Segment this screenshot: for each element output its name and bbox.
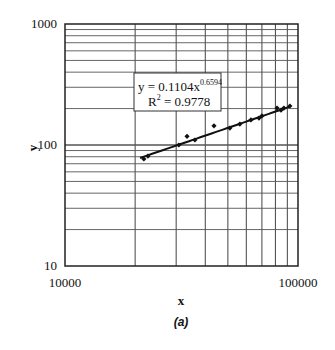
equation-box: y = 0.1104x0.6594 R2 = 0.9778 — [134, 73, 222, 111]
data-point — [184, 134, 189, 139]
grid — [65, 24, 298, 266]
trendline-exponent: 0.6594 — [200, 78, 222, 87]
x-tick-label: 100000 — [279, 275, 318, 290]
tick-labels: 10100100010000100000 — [31, 16, 318, 290]
y-axis-label: y — [25, 144, 40, 151]
x-tick-label: 10000 — [49, 275, 82, 290]
y-tick-label: 1000 — [31, 16, 57, 31]
x-axis-label: x — [178, 293, 185, 308]
y-tick-label: 10 — [44, 258, 57, 273]
y-tick-label: 100 — [38, 137, 58, 152]
data-point — [248, 117, 253, 122]
figure-caption: (a) — [174, 315, 189, 329]
data-point — [211, 123, 216, 128]
chart: 10100100010000100000 y = 0.1104x0.6594 R… — [0, 0, 335, 350]
